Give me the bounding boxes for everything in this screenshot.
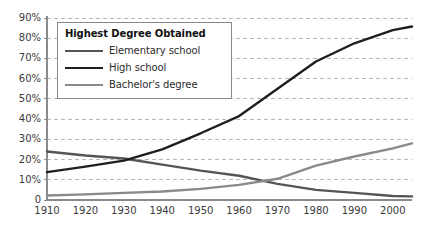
y-tick-label: 50% — [0, 94, 41, 104]
x-tick-label: 2000 — [369, 206, 417, 216]
legend-entry: Elementary school — [65, 42, 224, 59]
legend-entries: Elementary schoolHigh schoolBachelor's d… — [65, 42, 224, 93]
legend-entry-label: Elementary school — [109, 45, 200, 56]
legend-entry-label: High school — [109, 62, 166, 73]
y-tick-label: 90% — [0, 13, 41, 23]
series-line-2 — [47, 143, 412, 195]
legend-entry-label: Bachelor's degree — [109, 79, 197, 90]
legend-color-swatch — [65, 50, 103, 52]
y-tick-label: 80% — [0, 33, 41, 43]
legend-color-swatch — [65, 67, 103, 69]
chart-legend: Highest Degree Obtained Elementary schoo… — [57, 22, 232, 99]
y-tick-label: 10% — [0, 175, 41, 185]
legend-title: Highest Degree Obtained — [65, 28, 224, 39]
series-line-0 — [47, 151, 412, 196]
y-tick-label: 40% — [0, 114, 41, 124]
y-tick-label: 20% — [0, 155, 41, 165]
y-tick-label: 30% — [0, 134, 41, 144]
y-tick-label: 0 — [0, 195, 41, 205]
legend-color-swatch — [65, 84, 103, 86]
line-chart: 010%20%30%40%50%60%70%80%90% 19101920193… — [0, 0, 425, 241]
legend-entry: High school — [65, 59, 224, 76]
legend-entry: Bachelor's degree — [65, 76, 224, 93]
y-tick-label: 60% — [0, 74, 41, 84]
y-tick-label: 70% — [0, 53, 41, 63]
